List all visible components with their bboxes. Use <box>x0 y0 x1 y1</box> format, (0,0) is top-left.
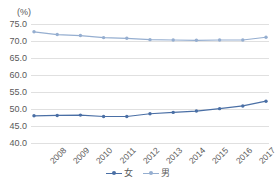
data-point-marker <box>148 38 151 41</box>
data-point-marker <box>195 109 198 112</box>
data-point-marker <box>102 36 105 39</box>
legend-label: 女 <box>124 168 133 178</box>
data-point-marker <box>172 38 175 41</box>
y-axis-tick-label: 55.0 <box>9 88 27 97</box>
legend-label: 男 <box>161 168 170 178</box>
x-axis-tick-label: 2016 <box>234 146 254 166</box>
x-axis-tick-label: 2011 <box>118 146 137 165</box>
y-axis-tick-label: 50.0 <box>9 105 27 114</box>
line-chart: (%) 75.070.065.060.055.050.045.040.0 200… <box>0 0 276 183</box>
data-point-marker <box>172 111 175 114</box>
y-axis-tick-label: 65.0 <box>9 54 27 63</box>
data-point-marker <box>195 39 198 42</box>
data-point-marker <box>32 114 35 117</box>
legend-swatch-icon <box>143 169 159 178</box>
y-axis-tick-label: 45.0 <box>9 122 27 131</box>
data-point-marker <box>102 115 105 118</box>
chart-legend: 女男 <box>0 168 276 178</box>
data-point-marker <box>79 113 82 116</box>
data-point-marker <box>264 36 267 39</box>
x-axis-tick-label: 2013 <box>165 146 185 166</box>
x-axis-tick-label: 2014 <box>188 146 208 166</box>
x-axis-tick-label: 2008 <box>49 146 69 166</box>
data-point-marker <box>125 115 128 118</box>
data-point-marker <box>218 38 221 41</box>
data-point-marker <box>241 104 244 107</box>
data-point-marker <box>79 34 82 37</box>
x-axis-tick-label: 2010 <box>95 146 115 166</box>
data-point-marker <box>148 112 151 115</box>
plot-area: 75.070.065.060.055.050.045.040.0 <box>31 24 269 143</box>
series-group <box>31 24 269 143</box>
data-point-marker <box>218 107 221 110</box>
y-axis-tick-label: 40.0 <box>9 139 27 148</box>
x-axis-tick-label: 2017 <box>257 146 276 166</box>
data-point-marker <box>32 30 35 33</box>
y-axis-tick-label: 60.0 <box>9 71 27 80</box>
y-axis-tick-label: 75.0 <box>9 20 27 29</box>
legend-item[interactable]: 女 <box>106 168 133 178</box>
x-axis-tick-label: 2015 <box>211 146 231 166</box>
x-axis-tick-label: 2009 <box>72 146 92 166</box>
y-axis-unit-label: (%) <box>17 7 31 17</box>
y-axis-tick-label: 70.0 <box>9 37 27 46</box>
legend-swatch-icon <box>106 169 122 178</box>
data-point-marker <box>241 38 244 41</box>
data-point-marker <box>56 114 59 117</box>
x-axis-labels: 2008200920102011201220132014201520162017… <box>31 144 269 170</box>
data-point-marker <box>125 37 128 40</box>
legend-item[interactable]: 男 <box>143 168 170 178</box>
x-axis-tick-label: 2012 <box>141 146 161 166</box>
data-point-marker <box>264 99 267 102</box>
data-point-marker <box>56 33 59 36</box>
